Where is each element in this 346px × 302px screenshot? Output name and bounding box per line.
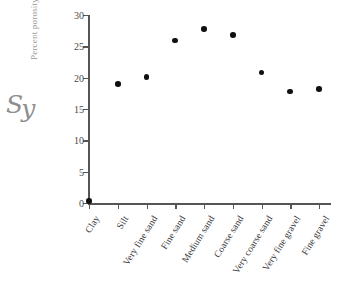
data-point [144, 74, 150, 80]
x-tick-label: Silt [115, 214, 131, 231]
x-tick-label: Fine sand [159, 214, 187, 251]
data-point [172, 38, 178, 44]
y-axis-label-container: Percent porosity [48, 60, 62, 190]
x-tick-mark [204, 203, 205, 209]
data-point [86, 198, 92, 204]
x-tick-mark [147, 203, 148, 209]
y-tick-label: 20 [74, 72, 84, 83]
data-point [201, 26, 207, 32]
porosity-scatter-figure: Sy Percent porosity 051015202530 ClaySil… [0, 0, 346, 302]
x-tick-mark [175, 203, 176, 209]
handwritten-y-glyph: y [21, 94, 34, 123]
y-tick-label: 10 [74, 135, 84, 146]
y-axis-line [88, 15, 90, 204]
x-tick-mark [290, 203, 291, 209]
x-tick-label: Fine gravel [300, 214, 332, 257]
x-tick-mark [118, 203, 119, 209]
data-point [115, 81, 121, 87]
x-tick-mark [319, 203, 320, 209]
x-axis-line [88, 203, 331, 205]
plot-area: 051015202530 ClaySiltVery fine sandFine … [88, 15, 330, 203]
data-point [230, 32, 236, 38]
x-tick-label: Coarse sand [212, 214, 246, 259]
y-tick-label: 0 [79, 198, 84, 209]
data-point [316, 86, 322, 92]
y-tick-label: 30 [74, 10, 84, 21]
handwritten-sy-annotation: Sy [6, 92, 35, 117]
data-point [287, 89, 293, 95]
x-tick-label: Clay [83, 214, 101, 235]
data-point [259, 70, 265, 76]
y-tick-label: 25 [74, 41, 84, 52]
x-tick-mark [233, 203, 234, 209]
y-tick-label: 15 [74, 104, 84, 115]
handwritten-s-glyph: S [6, 90, 22, 119]
x-tick-mark [262, 203, 263, 209]
y-tick-label: 5 [79, 166, 84, 177]
y-axis-label: Percent porosity [29, 0, 43, 60]
